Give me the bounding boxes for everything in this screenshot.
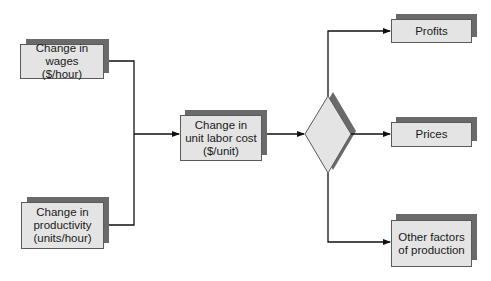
edge-to-other-factors	[328, 173, 390, 242]
decision-diamond	[305, 96, 351, 173]
node-prices-label: Prices	[391, 122, 472, 147]
node-wages-label: Change in wages ($/hour)	[20, 44, 104, 79]
node-other-factors-label: Other factors of production	[391, 220, 472, 267]
edge-to-profits	[328, 31, 390, 96]
node-unit-labor-cost-label: Change in unit labor cost ($/unit)	[180, 115, 262, 161]
node-productivity-label: Change in productivity (units/hour)	[21, 202, 104, 249]
node-profits-label: Profits	[391, 19, 472, 43]
flowchart: Change in wages ($/hour) Change in produ…	[0, 0, 491, 281]
